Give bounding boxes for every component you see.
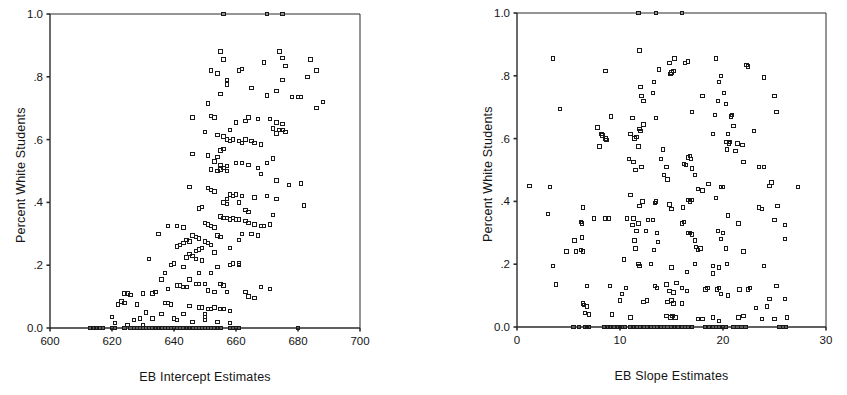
data-point [629,132,632,135]
data-point [228,246,231,249]
data-point [206,154,209,157]
data-point [640,95,643,98]
data-point [725,263,728,266]
data-point [641,200,644,203]
data-point [203,130,206,133]
data-point [113,322,116,325]
data-point [737,222,740,225]
x-tick-label-left-5: 700 [350,335,369,347]
data-point [182,226,185,229]
data-point [281,122,284,125]
x-tick-label-right-3: 30 [820,334,833,346]
data-point [760,317,763,320]
data-point [773,219,776,222]
x-tick-label-left-3: 660 [226,335,245,347]
data-point [228,309,231,312]
data-point [768,297,771,300]
data-point [721,231,724,234]
data-point [665,314,668,317]
y-tick-label-left-5: 1.0 [27,8,43,20]
data-point [752,129,755,132]
data-points-left [89,12,325,329]
data-point [244,290,247,293]
x-tick-label-left-4: 680 [288,335,307,347]
data-point [634,247,637,250]
data-point [757,165,760,168]
data-point [210,69,213,72]
data-point [309,58,312,61]
data-point [639,85,642,88]
data-point [275,179,278,182]
data-point [642,123,645,126]
data-point [652,80,655,83]
data-point [773,95,776,98]
data-point [763,264,766,267]
data-point [726,294,729,297]
y-tick-label-right-1: .2 [500,258,510,270]
data-point [714,197,717,200]
data-point [775,284,778,287]
data-point [635,230,638,233]
data-point [738,288,741,291]
data-point [763,165,766,168]
data-point [247,163,250,166]
data-point [724,102,727,105]
data-point [132,318,135,321]
data-point [783,297,786,300]
data-point [722,91,725,94]
data-point [675,281,678,284]
x-axis-title-left: EB Intercept Estimates [55,370,355,384]
data-point [737,316,740,319]
data-point [668,62,671,65]
data-point [783,223,786,226]
data-point [160,312,163,315]
data-point [315,107,318,110]
y-tick-label-right-2: .4 [500,195,510,207]
data-point [284,64,287,67]
data-point [281,78,284,81]
data-point [701,95,704,98]
data-point [655,231,658,234]
data-point [272,213,275,216]
data-point [253,296,256,299]
x-axis-title-right: EB Slope Estimates [522,369,822,383]
data-point [188,304,191,307]
data-point [234,121,237,124]
data-point [191,152,194,155]
data-point [203,282,206,285]
y-axis-title-left: Percent White Students [14,107,28,243]
data-point [741,143,744,146]
data-point [303,204,306,207]
data-point [281,56,284,59]
data-point [275,121,278,124]
y-tick-label-right-0: 0.0 [494,321,510,333]
data-point [259,172,262,175]
data-point [315,69,318,72]
data-point [663,173,666,176]
data-point [736,142,739,145]
data-point [732,124,735,127]
data-point [237,238,240,241]
data-point [697,317,700,320]
data-point [256,166,259,169]
data-point [701,317,704,320]
data-point [598,145,601,148]
data-point [651,91,654,94]
data-point [216,320,219,323]
data-point [163,271,166,274]
data-point [593,217,596,220]
data-point [719,292,722,295]
data-point [275,89,278,92]
y-tick-label-right-4: .8 [500,70,510,82]
data-point [609,115,612,118]
data-point [228,322,231,325]
data-point [716,230,719,233]
scatter-plot-figure: 0.0.2.4.6.81.0600620640660680700 Percent… [0,0,847,395]
data-point [191,320,194,323]
data-point [711,316,714,319]
data-point [610,313,613,316]
data-point [665,283,668,286]
data-point [268,117,271,120]
data-point [638,49,641,52]
data-point [216,265,219,268]
